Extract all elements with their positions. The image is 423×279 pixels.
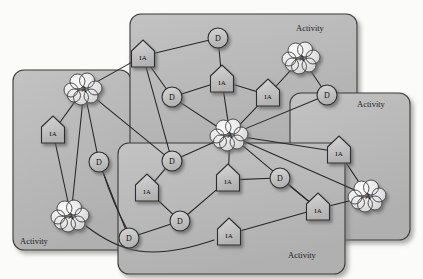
node-d[interactable]: D (119, 228, 139, 248)
node-label: IA (139, 54, 146, 62)
node-label: D (215, 34, 221, 43)
node-d[interactable]: D (162, 87, 182, 107)
node-label: A (299, 54, 305, 63)
node-label: D (324, 91, 330, 100)
node-label: D (169, 157, 175, 166)
node-label: A (227, 131, 233, 140)
activity-panel-label: Activity (357, 99, 386, 109)
diagram-canvas: AIADAIADDIAIAADADIADDIADIAIAIAA Activity… (0, 0, 423, 279)
node-label: IA (335, 150, 342, 158)
node-label: D (96, 158, 102, 167)
node-label: D (169, 93, 175, 102)
node-d[interactable]: D (208, 28, 228, 48)
activity-panel-label: Activity (296, 23, 325, 33)
node-d[interactable]: D (170, 211, 190, 231)
activity-panel-label: Activity (288, 250, 317, 260)
node-label: A (68, 212, 74, 221)
node-label: IA (49, 130, 56, 138)
node-label: IA (264, 93, 271, 101)
node-label: A (365, 192, 371, 201)
node-label: D (277, 174, 283, 183)
node-label: IA (314, 207, 321, 215)
node-label: A (81, 85, 87, 94)
node-label: IA (143, 188, 150, 196)
activity-network-svg: AIADAIADDIAIAADADIADDIADIAIAIAA Activity… (0, 0, 423, 279)
node-label: IA (218, 79, 225, 87)
node-d[interactable]: D (162, 151, 182, 171)
node-label: D (177, 217, 183, 226)
panel-layer (13, 14, 410, 274)
activity-panel-label: Activity (20, 236, 49, 246)
node-d[interactable]: D (317, 85, 337, 105)
node-label: IA (225, 232, 232, 240)
node-label: D (126, 234, 132, 243)
node-d[interactable]: D (89, 152, 109, 172)
node-d[interactable]: D (270, 168, 290, 188)
node-label: IA (224, 178, 231, 186)
